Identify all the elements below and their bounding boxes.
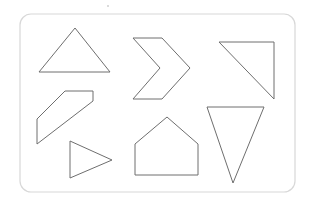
marks-group: [107, 5, 109, 7]
shapes-svg: Isosceles triangle pointing upRight-poin…: [0, 0, 313, 210]
shape-diagram-canvas: Geometric shapes worksheet Isosceles tri…: [0, 0, 313, 210]
speck-artifact: [107, 5, 109, 7]
